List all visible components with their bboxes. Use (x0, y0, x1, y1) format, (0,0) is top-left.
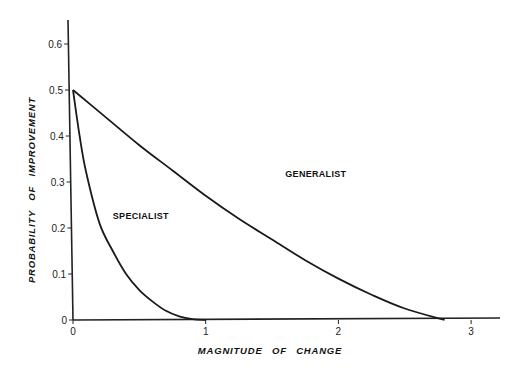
x-tick-label: 1 (203, 326, 209, 337)
y-tick-label: 0.5 (49, 85, 63, 96)
series-generalist-line (73, 90, 445, 320)
x-tick-label: 3 (468, 326, 474, 337)
series-lines (73, 90, 445, 320)
ticks: 012300.10.20.30.40.50.6 (48, 39, 474, 338)
chart: 012300.10.20.30.40.50.6 GENERALISTSPECIA… (0, 0, 523, 377)
axes (68, 20, 500, 320)
label-specialist: SPECIALIST (113, 211, 169, 221)
y-tick-label: 0.1 (52, 269, 66, 280)
y-tick-label: 0.2 (51, 223, 65, 234)
y-tick-label: 0.4 (50, 131, 64, 142)
series-specialist-line (73, 90, 206, 320)
x-tick-label: 2 (336, 326, 342, 337)
y-tick-label: 0 (61, 315, 67, 326)
y-tick-label: 0.3 (51, 177, 65, 188)
x-tick-label: 0 (70, 326, 76, 337)
label-generalist: GENERALIST (285, 169, 346, 179)
y-axis (68, 20, 73, 320)
y-tick-label: 0.6 (48, 39, 62, 50)
y-axis-label: PROBABILITY OF IMPROVEMENT (26, 96, 37, 283)
x-axis-label: MAGNITUDE OF CHANGE (198, 345, 342, 356)
